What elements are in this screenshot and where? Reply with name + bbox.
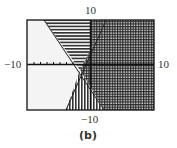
region-plot [0, 0, 177, 148]
y-min-label: −10 [81, 114, 98, 125]
x-min-label: −10 [4, 59, 21, 70]
x-max-label: 10 [158, 59, 169, 70]
figure-caption: (b) [79, 130, 97, 141]
y-max-label: 10 [85, 5, 96, 16]
